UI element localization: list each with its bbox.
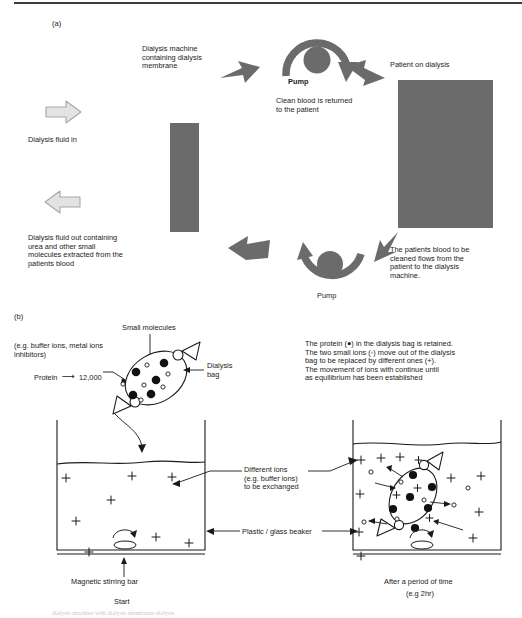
- after-period-sub-label: (e.g 2hr): [406, 590, 434, 599]
- arrow-pump-to-patient: [344, 58, 388, 92]
- dialysis-fluid-out-label: Dialysis fluid out containing urea and o…: [28, 234, 123, 268]
- different-ions-left-leader: [170, 468, 244, 490]
- dialysis-explanation-text: The protein (●) in the dialysis bag is r…: [305, 340, 455, 383]
- stir-bar-pointer-arrow: [118, 556, 130, 578]
- magnetic-stir-bar-icon-right: [410, 530, 434, 549]
- blood-flow-text: The patients blood to be cleaned flows f…: [390, 246, 469, 280]
- left-beaker: [55, 420, 207, 560]
- right-beaker: [351, 420, 503, 560]
- bag-clamp-top-icon: [173, 342, 200, 360]
- dialysis-fluid-in-arrow-icon: [44, 98, 84, 126]
- start-label: Start: [114, 598, 130, 607]
- different-ions-label: Different ions (e.g. buffer ions) to be …: [244, 466, 299, 492]
- patient-label: Patient on dialysis: [390, 61, 450, 70]
- arrow-pump-to-machine: [226, 234, 272, 268]
- panel-b-label: (b): [14, 312, 23, 321]
- small-molecules-label: Small molecules: [122, 324, 176, 333]
- magnetic-stir-bar-label: Magnetic stirring bar: [71, 578, 138, 587]
- protein-molecular-weight: 12,000: [79, 374, 102, 383]
- dialysis-fluid-out-arrow-icon: [42, 188, 82, 216]
- pump-bottom-label: Pump: [317, 292, 336, 301]
- protein-arrow-glyph: ⟶: [62, 372, 75, 381]
- top-divider-rule: [14, 2, 522, 4]
- protein-label: Protein: [34, 374, 57, 383]
- arrow-machine-to-pump: [218, 56, 262, 88]
- patient-block: [398, 80, 493, 228]
- after-period-label: After a period of time: [384, 578, 453, 587]
- clean-blood-text: Clean blood is returned to the patient: [276, 97, 352, 114]
- dialysis-machine-block: [170, 123, 199, 232]
- dialysis-bag-diagram: [104, 336, 216, 422]
- dialysis-machine-label: Dialysis machine containing dialysis mem…: [142, 45, 202, 71]
- dialysis-bag-leader-line: [182, 365, 206, 377]
- pump-top-label: Pump: [288, 78, 309, 87]
- panel-a-label: (a): [52, 19, 61, 28]
- magnetic-stir-bar-icon: [113, 530, 137, 549]
- page-bottom-cut-text: dialysis machine with dialysis membrane …: [52, 609, 520, 616]
- beaker-label-left-leader: [204, 526, 242, 538]
- beaker-label: Plastic / glass beaker: [242, 528, 312, 537]
- dialysis-fluid-in-label: Dialysis fluid in: [28, 136, 77, 145]
- dialysis-bag-label: Dialysis bag: [207, 362, 232, 379]
- buffer-ions-label: (e.g. buffer ions, metal ions inhibitors…: [14, 342, 103, 359]
